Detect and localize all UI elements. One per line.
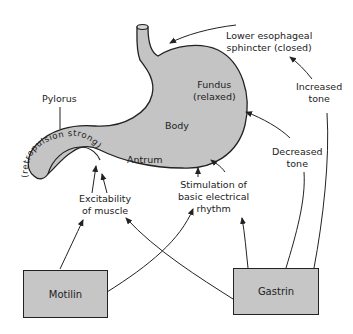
les-line1: Lower esophageal bbox=[226, 30, 312, 42]
increased-line1: Increased bbox=[296, 81, 342, 93]
arrow-excitability-2 bbox=[102, 174, 107, 193]
fundus-text: Fundus bbox=[193, 79, 236, 91]
label-excitability: Excitability of muscle bbox=[79, 193, 131, 217]
arrow-gastrin-to-excitability bbox=[126, 218, 233, 299]
motilin-label: Motilin bbox=[49, 289, 82, 300]
esophagus-opening bbox=[137, 25, 148, 30]
increased-line2: tone bbox=[296, 93, 342, 105]
label-pylorus: Pylorus bbox=[42, 93, 77, 105]
les-line2: sphincter (closed) bbox=[226, 42, 312, 54]
arrow-motilin-to-excitability bbox=[60, 220, 83, 269]
stim-line1: Stimulation of bbox=[178, 179, 249, 191]
arrow-decreased-tone-to-fundus bbox=[246, 112, 290, 138]
motilin-box: Motilin bbox=[23, 270, 108, 318]
stim-line2: basic electrical bbox=[178, 191, 249, 203]
label-body: Body bbox=[165, 120, 189, 132]
decreased-line1: Decreased bbox=[272, 146, 323, 158]
line-gastrin-to-decreased-tone bbox=[286, 172, 304, 268]
label-stimulation: Stimulation of basic electrical rhythm bbox=[178, 179, 249, 215]
arrow-motilin-to-stimulation bbox=[107, 209, 193, 292]
label-les: Lower esophageal sphincter (closed) bbox=[226, 30, 312, 54]
line-gastrin-to-increased-tone bbox=[314, 113, 328, 268]
arrow-excitability-1 bbox=[92, 166, 96, 193]
excit-line1: Excitability bbox=[79, 193, 131, 205]
arrow-gastrin-to-stimulation bbox=[242, 218, 248, 268]
fundus-state-text: (relaxed) bbox=[193, 91, 236, 103]
gastrin-box: Gastrin bbox=[233, 268, 319, 315]
arrow-stimulation-2 bbox=[211, 160, 225, 172]
excit-line2: of muscle bbox=[79, 205, 131, 217]
label-fundus: Fundus (relaxed) bbox=[193, 79, 236, 103]
decreased-line2: tone bbox=[272, 158, 323, 170]
label-decreased-tone: Decreased tone bbox=[272, 146, 323, 170]
gastrin-label: Gastrin bbox=[258, 286, 294, 297]
stim-line3: rhythm bbox=[178, 203, 249, 215]
arrow-increased-tone-to-les bbox=[290, 57, 312, 79]
label-antrum: Antrum bbox=[127, 154, 162, 166]
label-increased-tone: Increased tone bbox=[296, 81, 342, 105]
